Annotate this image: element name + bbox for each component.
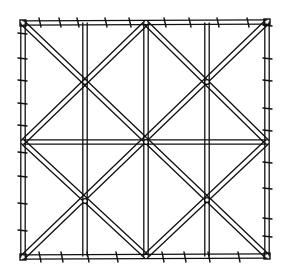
tick-mark — [18, 176, 27, 177]
tick-mark — [129, 18, 131, 27]
tick-mark — [162, 252, 164, 262]
tick-mark — [39, 252, 41, 262]
tick-mark — [263, 236, 272, 237]
tick-mark — [263, 58, 272, 59]
tick-mark — [87, 252, 89, 262]
tick-mark — [18, 230, 27, 231]
lattice-node — [205, 198, 210, 203]
tick-mark — [263, 80, 272, 81]
tick-mark — [263, 108, 272, 109]
tick-mark — [105, 18, 107, 27]
lattice-drawing: Square lattice trellis panel — [0, 0, 286, 278]
tick-mark — [263, 130, 272, 131]
tick-mark — [164, 18, 166, 27]
lattice-node — [83, 80, 88, 85]
tick-mark — [116, 252, 118, 262]
tick-mark — [18, 33, 27, 34]
tick-mark — [18, 203, 27, 204]
tick-mark — [263, 162, 272, 163]
lattice-svg — [0, 0, 286, 278]
tick-mark — [189, 18, 191, 27]
tick-mark — [18, 103, 27, 104]
tick-mark — [263, 218, 272, 219]
tick-mark — [18, 152, 27, 153]
tick-mark — [18, 80, 27, 81]
lattice-node — [83, 199, 88, 204]
lattice-node — [205, 80, 210, 85]
tick-mark — [263, 188, 272, 189]
tick-mark — [18, 125, 27, 126]
diagonal-main-1 — [25, 21, 269, 254]
lattice-node — [144, 140, 149, 145]
tick-mark — [18, 58, 27, 59]
tick-mark — [61, 252, 63, 262]
tick-mark — [77, 18, 79, 27]
frame-bottom — [23, 258, 267, 259]
